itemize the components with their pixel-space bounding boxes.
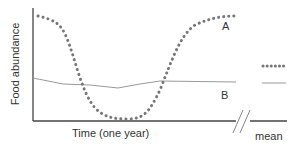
series-a-line [38, 16, 236, 119]
series-b-label: B [221, 89, 228, 101]
x-axis-label: Time (one year) [72, 127, 149, 139]
mean-label: mean [255, 130, 283, 142]
y-axis-label: Food abundance [9, 19, 21, 109]
series-a-label: A [222, 20, 229, 32]
series-b-line [33, 78, 236, 88]
